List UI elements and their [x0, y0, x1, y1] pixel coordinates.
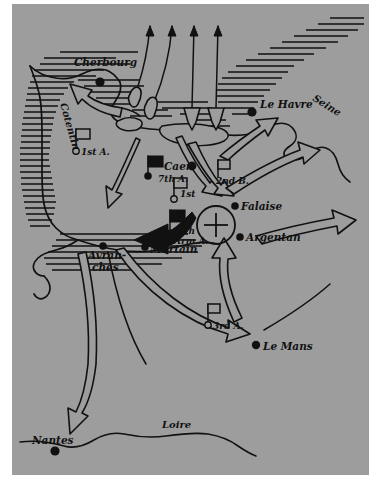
city-label-falaise: Falaise [240, 200, 282, 212]
invasion-arrow-2 [145, 26, 177, 119]
city-label-caen: Caen [164, 160, 193, 172]
advance-line-lemans-to-east [264, 284, 330, 330]
map-root: Cherbourg Le Havre Caen Falaise Argentan… [0, 0, 379, 487]
advance-line-cherbourg [122, 108, 140, 116]
coastline-brittany-inlet [34, 276, 50, 299]
normandy-campaign-map: Cherbourg Le Havre Caen Falaise Argentan… [12, 4, 369, 475]
city-marker-nantes [50, 446, 59, 455]
unit-label-fifth-panzer-army-line1: 5th [178, 226, 195, 236]
city-marker-mortain [141, 243, 149, 251]
unit-label-second-british-army: 2nd B. [215, 176, 249, 186]
unit-label-first-army-cotentin: 1st A. [81, 147, 110, 157]
advance-arrow-south-brittany [68, 252, 97, 434]
city-label-cherbourg: Cherbourg [74, 56, 137, 68]
city-label-avranches-line1: Avran- [87, 249, 126, 261]
beachhead-west [116, 118, 142, 131]
city-label-le-mans: Le Mans [262, 340, 313, 352]
unit-label-third-army: 3rd A. [213, 321, 244, 331]
river-label-loire: Loire [161, 419, 191, 430]
unit-label-seventh-army: 7th A. [158, 174, 188, 184]
city-marker-falaise [231, 202, 239, 210]
advance-arrow-cherbourg [70, 84, 122, 117]
city-marker-cherbourg [95, 77, 104, 86]
region-label-cotentin: Cotentin [58, 102, 82, 152]
city-label-avranches-line2: ches [92, 261, 119, 273]
city-marker-le-havre [247, 107, 256, 116]
advance-arrow-le-havre [220, 118, 278, 160]
city-label-le-havre: Le Havre [259, 98, 313, 110]
advance-arrow-south-cotentin [106, 138, 140, 208]
unit-symbol-second-british-army [218, 160, 230, 177]
city-marker-le-mans [252, 341, 260, 349]
city-label-nantes: Nantes [31, 434, 74, 446]
city-marker-argentan [236, 233, 244, 241]
unit-label-first-army-center: 1st [180, 189, 196, 199]
unit-label-fifth-panzer-army-line2: Arm.A. [173, 236, 209, 246]
city-label-argentan: Argentan [245, 231, 301, 243]
map-plate: Cherbourg Le Havre Caen Falaise Argentan… [12, 4, 369, 475]
river-label-seine: Seine [311, 92, 343, 118]
invasion-arrow-3 [184, 26, 200, 130]
invasion-arrow-4 [208, 26, 224, 130]
